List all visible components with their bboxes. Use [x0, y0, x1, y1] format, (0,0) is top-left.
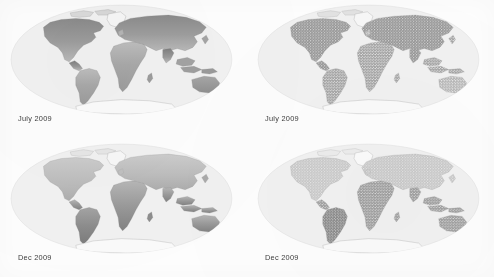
figure-container: July 2009 [0, 0, 494, 277]
region-new-zealand [472, 86, 478, 95]
world-map-mollweide [257, 143, 480, 257]
panel-label-top-right: July 2009 [265, 114, 299, 123]
map-canvas [257, 4, 480, 118]
map-canvas [10, 143, 233, 257]
panel-label-bottom-left: Dec 2009 [18, 253, 52, 262]
map-panel-top-right: July 2009 [247, 0, 494, 138]
region-new-zealand [225, 225, 231, 234]
panel-label-bottom-right: Dec 2009 [265, 253, 299, 262]
region-new-zealand [225, 86, 231, 95]
map-panel-bottom-right: Dec 2009 [247, 139, 494, 277]
region-new-zealand [472, 225, 478, 234]
map-canvas [257, 143, 480, 257]
panel-label-top-left: July 2009 [18, 114, 52, 123]
world-map-mollweide [257, 4, 480, 118]
map-canvas [10, 4, 233, 118]
map-panel-top-left: July 2009 [0, 0, 247, 138]
world-map-mollweide [10, 143, 233, 257]
map-panel-bottom-left: Dec 2009 [0, 139, 247, 277]
world-map-mollweide [10, 4, 233, 118]
